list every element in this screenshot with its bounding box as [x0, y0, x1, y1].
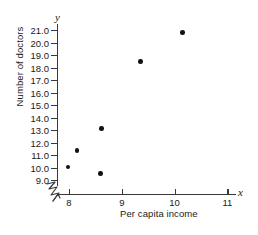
x-tick-9	[122, 189, 123, 195]
y-tick-10.0	[51, 168, 57, 169]
y-tick-18.0	[51, 68, 57, 69]
x-tick-label: 10	[165, 197, 185, 208]
y-tick-label: 17.0	[23, 75, 49, 86]
x-tick-11	[227, 189, 228, 195]
data-point	[75, 148, 80, 153]
data-point	[138, 59, 143, 64]
y-tick-19.0	[51, 55, 57, 56]
data-point	[66, 165, 71, 170]
y-tick-label: 11.0	[23, 150, 49, 161]
y-tick-label: 13.0	[23, 125, 49, 136]
y-tick-20.0	[51, 43, 57, 44]
x-tick-label: 11	[217, 197, 237, 208]
x-tick-label: 9	[112, 197, 132, 208]
x-tick-10	[175, 189, 176, 195]
y-tick-17.0	[51, 80, 57, 81]
y-tick-11.0	[51, 155, 57, 156]
y-axis-variable-letter: y	[55, 11, 60, 23]
y-tick-15.0	[51, 105, 57, 106]
x-axis-title: Per capita income	[120, 208, 198, 219]
y-tick-label: 14.0	[23, 112, 49, 123]
y-axis-title: Number of doctors	[14, 0, 25, 137]
data-point	[99, 126, 104, 131]
data-point	[98, 171, 103, 176]
y-tick-label: 12.0	[23, 137, 49, 148]
y-tick-label: 21.0	[23, 25, 49, 36]
y-tick-label: 20.0	[23, 37, 49, 48]
y-tick-label: 10.0	[23, 162, 49, 173]
data-point	[180, 30, 185, 35]
y-tick-16.0	[51, 93, 57, 94]
y-axis-line	[57, 24, 58, 186]
y-tick-label: 18.0	[23, 62, 49, 73]
y-tick-label: 16.0	[23, 87, 49, 98]
x-axis-line	[58, 194, 236, 195]
y-tick-13.0	[51, 130, 57, 131]
axis-break-icon	[44, 178, 74, 204]
y-tick-12.0	[51, 143, 57, 144]
x-axis-variable-letter: x	[238, 186, 243, 198]
y-tick-label: 15.0	[23, 100, 49, 111]
y-tick-14.0	[51, 118, 57, 119]
y-tick-label: 19.0	[23, 50, 49, 61]
y-tick-21.0	[51, 30, 57, 31]
scatter-plot-figure: y x 9.010.011.012.013.014.015.016.017.01…	[0, 0, 258, 235]
